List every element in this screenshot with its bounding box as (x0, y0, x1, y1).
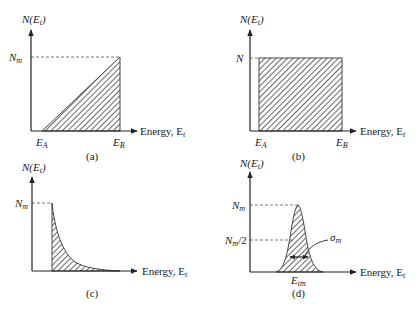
panel-a-eb-label: EB (112, 136, 125, 150)
panel-b: N(Et) N EA EB Energy, Et (b) (235, 13, 406, 163)
panel-b-x-label: Energy, Et (360, 125, 406, 139)
panel-a: N(Et) Nm EA EB Energy, Et (a) (8, 13, 186, 163)
trap-distribution-diagram: N(Et) Nm EA EB Energy, Et (a) N(Et) N EA… (0, 0, 417, 309)
panel-b-ea-label: EA (254, 136, 267, 150)
panel-b-y-label: N(Et) (239, 13, 264, 27)
panel-d-caption: (d) (292, 287, 305, 300)
panel-d-half-label: Nm/2 (224, 234, 247, 248)
panel-d-level-label: Nm (231, 199, 245, 213)
panel-d-gaussian-area (276, 205, 323, 272)
panel-c-decay-area (52, 203, 120, 271)
panel-a-ea-label: EA (35, 136, 48, 150)
panel-d: N(Et) Nm Nm/2 σm Etm Energy, Et (d) (224, 157, 406, 300)
panel-d-etm-label: Etm (290, 274, 306, 288)
panel-b-caption: (b) (292, 150, 305, 163)
panel-c-caption: (c) (86, 287, 99, 300)
panel-b-level-label: N (235, 52, 244, 64)
panel-a-ramp-area (42, 57, 120, 131)
panel-b-eb-label: EB (335, 136, 348, 150)
panel-d-y-label: N(Et) (239, 157, 264, 171)
panel-c-y-label: N(Et) (21, 161, 46, 175)
panel-c: N(Et) Nm Energy, Et (c) (14, 161, 188, 300)
panel-c-level-label: Nm (14, 197, 28, 211)
panel-a-caption: (a) (86, 150, 99, 163)
panel-d-x-label: Energy, Et (360, 266, 406, 280)
panel-a-level-label: Nm (8, 51, 22, 65)
panel-a-x-label: Energy, Et (140, 125, 186, 139)
panel-c-x-label: Energy, Et (142, 265, 188, 279)
panel-a-y-label: N(Et) (21, 13, 46, 27)
panel-d-sigma-label: σm (330, 231, 341, 245)
panel-b-uniform-area (259, 58, 342, 131)
